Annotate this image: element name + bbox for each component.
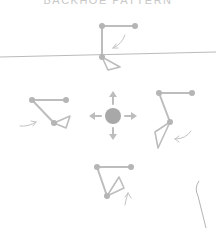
stick-arm [97, 167, 107, 196]
arrow-down-icon [109, 128, 117, 140]
motion-arrow-icon [20, 121, 36, 126]
arrow-up-icon [109, 91, 117, 104]
joint-node [99, 54, 105, 60]
joint-node [132, 23, 138, 29]
backhoe-pattern-diagram: BACKHOE PATTERN [0, 0, 216, 228]
joint-node [29, 97, 35, 103]
joint-node [104, 193, 110, 199]
motion-arrow-icon [113, 35, 125, 48]
bucket-icon [102, 57, 120, 70]
diagram-canvas [0, 0, 216, 228]
joint-node [167, 119, 173, 125]
pose-bottom [94, 164, 134, 205]
joint-node [128, 164, 134, 170]
divider-line [0, 52, 216, 57]
motion-arrow-icon [175, 131, 191, 142]
joint-node [156, 90, 162, 96]
arrow-left-icon [89, 112, 101, 120]
joint-node [51, 120, 57, 126]
stick-arm [32, 100, 54, 123]
pencil-stroke [196, 181, 206, 228]
arrow-right-icon [125, 112, 137, 120]
bucket-icon [107, 177, 124, 196]
joystick-knob-icon [105, 108, 121, 124]
joystick [89, 91, 137, 140]
joint-node [63, 97, 69, 103]
joint-node [99, 23, 105, 29]
motion-arrow-icon [125, 193, 131, 205]
stick-arm [159, 93, 170, 122]
bucket-icon [155, 122, 170, 148]
pose-right [155, 90, 195, 148]
pose-top [99, 23, 138, 70]
joint-node [189, 90, 195, 96]
joint-node [94, 164, 100, 170]
pose-left [20, 97, 70, 128]
